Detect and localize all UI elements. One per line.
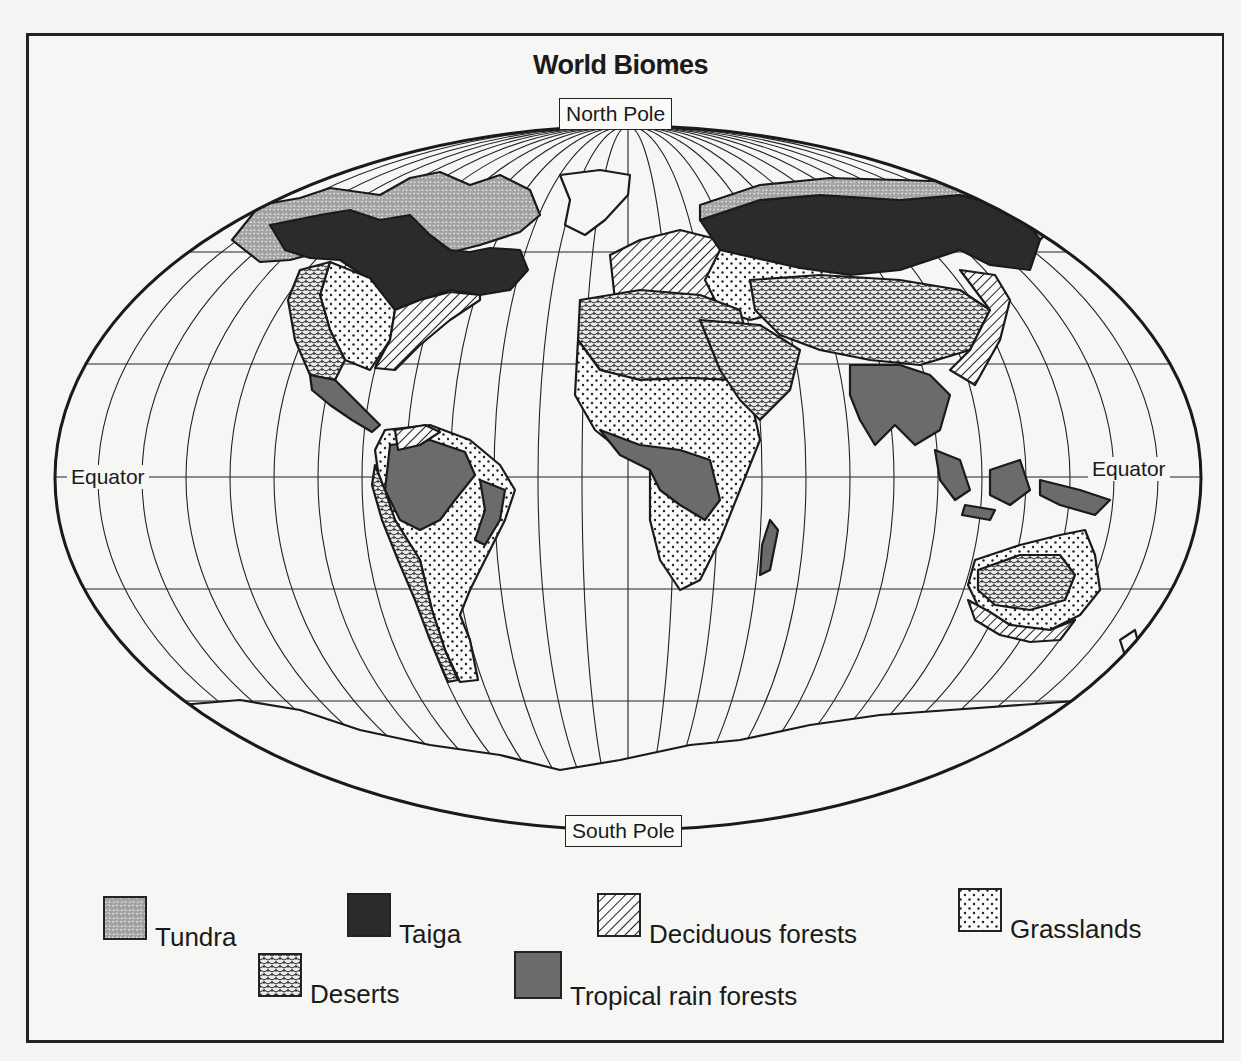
legend-label: Taiga bbox=[399, 921, 461, 947]
taiga-fill-icon bbox=[347, 893, 391, 937]
legend-label: Tropical rain forests bbox=[570, 983, 797, 1009]
legend-item-grasslands: Grasslands bbox=[958, 888, 1142, 932]
legend-item-tropical: Tropical rain forests bbox=[514, 951, 797, 999]
hatch-pattern-icon bbox=[597, 893, 641, 937]
tundra-pattern-icon bbox=[103, 896, 147, 940]
equator-label-left: Equator bbox=[67, 465, 149, 489]
legend-item-tundra: Tundra bbox=[103, 896, 236, 940]
dot-pattern-icon bbox=[958, 888, 1002, 932]
legend-label: Grasslands bbox=[1010, 916, 1142, 942]
north-pole-label: North Pole bbox=[559, 98, 672, 130]
legend-item-deciduous: Deciduous forests bbox=[597, 893, 857, 937]
legend-label: Tundra bbox=[155, 924, 236, 950]
legend-item-deserts: Deserts bbox=[258, 953, 400, 997]
graticule bbox=[0, 126, 1241, 842]
equator-label-right: Equator bbox=[1088, 457, 1170, 481]
desert-pattern-icon bbox=[258, 953, 302, 997]
tropical-fill-icon bbox=[514, 951, 562, 999]
legend-label: Deserts bbox=[310, 981, 400, 1007]
south-pole-label: South Pole bbox=[565, 815, 682, 847]
legend-item-taiga: Taiga bbox=[347, 893, 461, 937]
legend-label: Deciduous forests bbox=[649, 921, 857, 947]
